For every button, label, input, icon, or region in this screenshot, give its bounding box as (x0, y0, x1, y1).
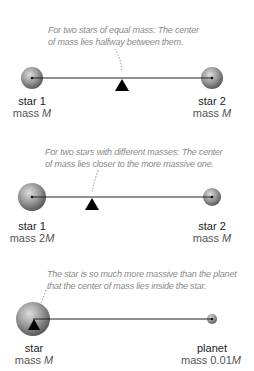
star-2-mass: mass M (177, 107, 247, 119)
center-of-mass-fulcrum (115, 79, 129, 91)
pointer-arrow (92, 170, 98, 192)
star-2-label: star 2 (182, 95, 242, 107)
panel-different-mass (18, 170, 221, 211)
caption-line: of mass lies halfway between them. (48, 36, 199, 48)
center-of-mass-fulcrum (85, 198, 99, 210)
caption-line: The star is so much more massive than th… (47, 268, 237, 280)
planet-label: planet (182, 342, 242, 354)
panel-equal-mass (21, 49, 223, 91)
star-1-mass: mass M (0, 107, 67, 119)
star-2-mass: mass M (177, 232, 247, 244)
caption-panel-1: For two stars of equal mass: The center … (48, 24, 199, 48)
caption-panel-3: The star is so much more massive than th… (47, 268, 237, 292)
caption-line: that the center of mass lies inside the … (47, 280, 237, 292)
caption-panel-2: For two stars with different masses: The… (45, 146, 223, 170)
star-2-label: star 2 (182, 220, 242, 232)
planet-mass: mass 0.01M (176, 354, 246, 366)
star-1-mass: mass 2M (0, 232, 67, 244)
caption-line: For two stars with different masses: The… (45, 146, 223, 158)
star-1-label: star 1 (2, 95, 62, 107)
center-of-mass-diagram (0, 0, 254, 371)
caption-line: of mass lies closer to the more massive … (45, 158, 223, 170)
star-label: star (4, 342, 64, 354)
star-1-label: star 1 (2, 220, 62, 232)
panel-star-planet (16, 290, 217, 336)
caption-line: For two stars of equal mass: The center (48, 24, 199, 36)
pointer-arrow (115, 49, 122, 72)
star-mass: mass M (0, 354, 69, 366)
